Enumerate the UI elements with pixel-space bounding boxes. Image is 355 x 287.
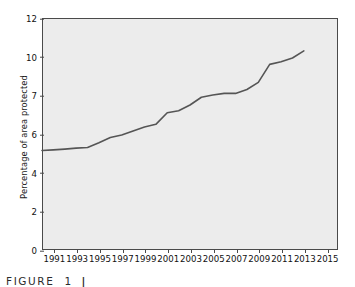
y-tick-label: 2: [32, 208, 40, 217]
y-axis-title: Percentage of area protected: [19, 37, 29, 237]
x-tick-label: 2003: [180, 255, 202, 264]
x-tick-label: 1995: [89, 255, 111, 264]
caption-number: 1: [55, 275, 73, 287]
y-tick-label: 6: [32, 131, 40, 140]
figure-caption: FIGURE1|: [6, 275, 351, 287]
y-tick-10: 10: [26, 53, 43, 62]
x-tick-label: 2011: [271, 255, 293, 264]
x-tick-label: 1991: [43, 255, 65, 264]
x-tick-label: 2001: [157, 255, 179, 264]
y-tick-label: 7: [32, 92, 40, 101]
x-tick-label: 1993: [66, 255, 88, 264]
x-tick-label: 2013: [294, 255, 316, 264]
x-tick-label: 1999: [135, 255, 157, 264]
x-tick-label: 2009: [248, 255, 270, 264]
y-tick-mark: [40, 251, 44, 252]
y-tick-12: 12: [26, 15, 43, 24]
data-line-chart: [42, 18, 338, 250]
series-line-percentage-of-area-protected: [42, 51, 304, 151]
x-tick-label: 2007: [226, 255, 248, 264]
y-tick-label: 12: [26, 15, 40, 24]
y-tick-label: 0: [32, 247, 40, 256]
caption-label: FIGURE: [6, 275, 55, 287]
x-tick-label: 2015: [317, 255, 339, 264]
x-tick-label: 2005: [203, 255, 225, 264]
x-tick-label: 1997: [112, 255, 134, 264]
y-tick-label: 4: [32, 169, 40, 178]
caption-separator: |: [72, 275, 90, 287]
y-tick-label: 10: [26, 53, 40, 62]
